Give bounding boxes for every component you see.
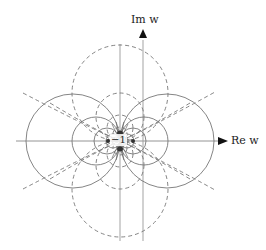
- point-label-minus-one: −1: [110, 134, 127, 146]
- im-axis-label: Im w: [131, 13, 159, 26]
- re-axis-arrow-icon: [218, 137, 228, 145]
- re-axis-label: Re w: [231, 134, 259, 147]
- im-axis-arrow-icon: [139, 29, 147, 38]
- conformal-map-diagram: [0, 0, 266, 250]
